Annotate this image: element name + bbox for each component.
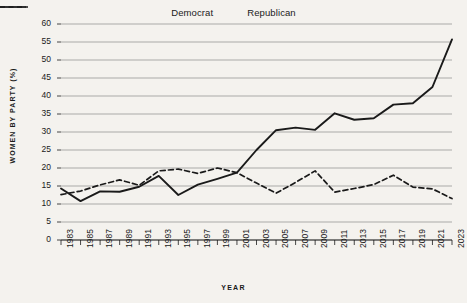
y-tick-label: 55 [21,36,51,46]
x-tick-label: 2021 [436,229,446,248]
x-tick-label: 2009 [319,229,329,248]
x-tick-label: 1985 [85,229,95,248]
x-tick-label: 2005 [280,229,290,248]
x-tick-label: 1989 [124,229,134,248]
x-tick-label: 1991 [143,229,153,248]
y-tick-label: 0 [21,234,51,244]
y-tick-label: 35 [21,108,51,118]
y-tick-label: 60 [21,18,51,28]
x-tick-label: 1983 [65,229,75,248]
y-tick-label: 45 [21,72,51,82]
x-tick-label: 1993 [163,229,173,248]
series-line-republican [61,168,452,199]
x-tick-label: 2023 [456,229,466,248]
x-tick-label: 2019 [417,229,427,248]
x-tick-label: 1999 [221,229,231,248]
x-tick-label: 1995 [182,229,192,248]
y-tick-label: 15 [21,180,51,190]
x-tick-label: 2007 [300,229,310,248]
y-tick-label: 20 [21,162,51,172]
y-tick-label: 40 [21,90,51,100]
plot-area [0,0,467,303]
chart-figure: Democrat Republican WOMEN BY PARTY (%) Y… [0,0,467,303]
x-tick-label: 2011 [339,230,349,248]
x-tick-label: 1987 [104,229,114,248]
y-tick-label: 50 [21,54,51,64]
x-tick-label: 2003 [261,229,271,248]
x-tick-label: 1997 [202,229,212,248]
series-line-democrat [61,39,452,201]
y-tick-label: 25 [21,144,51,154]
x-tick-label: 2001 [241,229,251,248]
x-tick-label: 2017 [397,229,407,248]
x-tick-label: 2015 [378,229,388,248]
y-tick-label: 10 [21,198,51,208]
x-tick-label: 2013 [358,229,368,248]
y-tick-label: 30 [21,126,51,136]
y-tick-label: 5 [21,216,51,226]
